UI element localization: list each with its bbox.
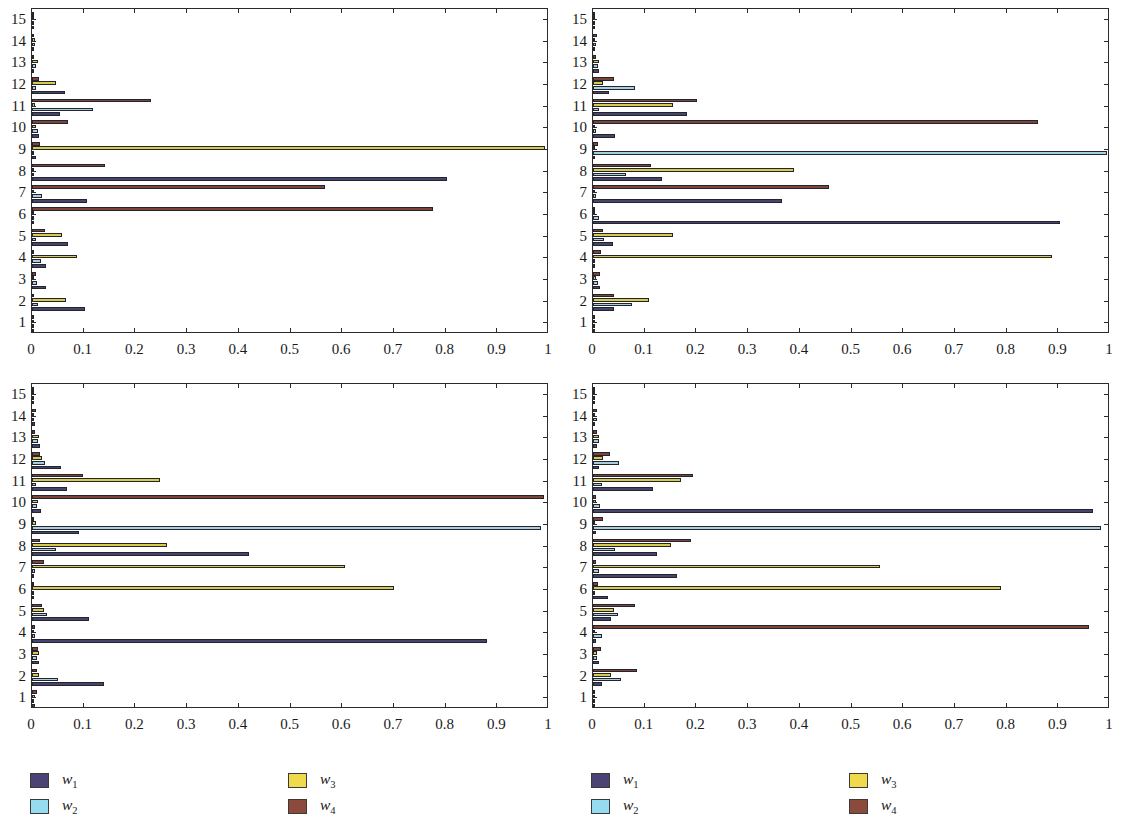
y-tick-mark-right	[1104, 192, 1109, 193]
x-tick-mark-bottom	[31, 703, 32, 708]
y-tick-mark-left	[31, 84, 36, 85]
y-tick-mark-right	[543, 84, 548, 85]
x-tick-label-0.3: 0.3	[738, 342, 757, 357]
legend-label-w3: w3	[881, 770, 897, 790]
x-tick-mark-top	[851, 383, 852, 388]
y-tick-label-8: 8	[561, 538, 587, 553]
y-tick-label-6: 6	[0, 581, 26, 596]
x-tick-label-0.7: 0.7	[945, 717, 964, 732]
x-tick-label-0.5: 0.5	[841, 717, 860, 732]
x-tick-label-0.9: 0.9	[487, 717, 506, 732]
y-tick-mark-left	[592, 214, 597, 215]
legend-item-w4[interactable]: w4	[849, 796, 897, 816]
y-tick-mark-left	[592, 127, 597, 128]
x-tick-mark-top	[695, 383, 696, 388]
legend-item-w3[interactable]: w3	[288, 770, 336, 790]
y-tick-label-2: 2	[0, 293, 26, 308]
y-tick-label-2: 2	[561, 668, 587, 683]
y-tick-mark-left	[31, 214, 36, 215]
y-tick-mark-right	[543, 394, 548, 395]
y-tick-mark-left	[31, 301, 36, 302]
x-tick-mark-top	[186, 8, 187, 13]
x-tick-label-0: 0	[588, 342, 596, 357]
y-tick-mark-right	[1104, 127, 1109, 128]
y-tick-mark-left	[31, 546, 36, 547]
y-tick-mark-right	[1104, 84, 1109, 85]
y-tick-mark-right	[1104, 502, 1109, 503]
y-tick-mark-right	[543, 236, 548, 237]
x-tick-label-1: 1	[1105, 717, 1113, 732]
x-tick-mark-bottom	[83, 703, 84, 708]
y-tick-mark-right	[1104, 437, 1109, 438]
x-tick-mark-bottom	[851, 328, 852, 333]
y-tick-mark-right	[543, 697, 548, 698]
y-tick-mark-right	[543, 19, 548, 20]
y-tick-mark-left	[592, 524, 597, 525]
legend-label-w4: w4	[320, 796, 336, 816]
legend-item-w1[interactable]: w1	[591, 770, 639, 790]
y-tick-label-12: 12	[0, 451, 26, 466]
x-tick-label-0.5: 0.5	[280, 342, 299, 357]
x-tick-mark-top	[902, 383, 903, 388]
x-tick-label-0.8: 0.8	[996, 342, 1015, 357]
y-tick-mark-right	[543, 127, 548, 128]
y-tick-label-9: 9	[0, 516, 26, 531]
y-tick-mark-right	[1104, 589, 1109, 590]
x-tick-mark-bottom	[547, 703, 548, 708]
y-tick-mark-left	[592, 106, 597, 107]
y-tick-label-2: 2	[561, 293, 587, 308]
y-tick-label-7: 7	[561, 560, 587, 575]
panel-mtp-gait: Mtp gait 12345678910111213141500.10.20.3…	[561, 375, 1122, 745]
x-tick-mark-bottom	[393, 703, 394, 708]
y-tick-label-13: 13	[0, 430, 26, 445]
x-tick-mark-top	[1006, 8, 1007, 13]
y-tick-mark-left	[31, 611, 36, 612]
y-tick-label-15: 15	[561, 386, 587, 401]
legend-item-w3[interactable]: w3	[849, 770, 897, 790]
x-tick-label-0.4: 0.4	[228, 717, 247, 732]
x-tick-mark-bottom	[186, 703, 187, 708]
y-tick-mark-right	[1104, 676, 1109, 677]
y-tick-label-10: 10	[0, 120, 26, 135]
x-tick-mark-bottom	[290, 703, 291, 708]
legend-item-w1[interactable]: w1	[30, 770, 78, 790]
y-tick-label-4: 4	[0, 250, 26, 265]
y-tick-label-7: 7	[0, 185, 26, 200]
y-tick-label-1: 1	[0, 315, 26, 330]
x-tick-mark-top	[644, 8, 645, 13]
x-tick-mark-bottom	[747, 703, 748, 708]
y-tick-mark-left	[592, 62, 597, 63]
y-tick-label-4: 4	[0, 625, 26, 640]
y-tick-label-15: 15	[0, 11, 26, 26]
y-tick-mark-left	[592, 654, 597, 655]
x-tick-mark-top	[799, 8, 800, 13]
x-tick-mark-bottom	[695, 328, 696, 333]
y-tick-mark-left	[31, 697, 36, 698]
y-tick-mark-right	[543, 279, 548, 280]
legend-item-w2[interactable]: w2	[591, 796, 639, 816]
y-tick-mark-right	[1104, 301, 1109, 302]
y-tick-label-3: 3	[0, 646, 26, 661]
y-tick-label-12: 12	[0, 76, 26, 91]
legend-item-w2[interactable]: w2	[30, 796, 78, 816]
x-tick-mark-bottom	[341, 703, 342, 708]
y-tick-mark-left	[592, 171, 597, 172]
x-tick-label-0.8: 0.8	[435, 717, 454, 732]
y-tick-label-7: 7	[561, 185, 587, 200]
x-tick-mark-top	[644, 383, 645, 388]
x-tick-mark-bottom	[1006, 328, 1007, 333]
y-tick-mark-right	[1104, 459, 1109, 460]
legend-label-w1: w1	[623, 770, 639, 790]
y-tick-mark-right	[543, 567, 548, 568]
legend-item-w4[interactable]: w4	[288, 796, 336, 816]
y-tick-mark-left	[592, 84, 597, 85]
y-tick-mark-left	[592, 322, 597, 323]
y-tick-mark-right	[543, 546, 548, 547]
x-tick-mark-bottom	[445, 328, 446, 333]
x-tick-label-0.6: 0.6	[893, 342, 912, 357]
y-tick-mark-right	[1104, 546, 1109, 547]
y-tick-mark-left	[592, 481, 597, 482]
y-tick-label-13: 13	[561, 55, 587, 70]
x-tick-label-0.3: 0.3	[738, 717, 757, 732]
y-tick-mark-right	[1104, 524, 1109, 525]
